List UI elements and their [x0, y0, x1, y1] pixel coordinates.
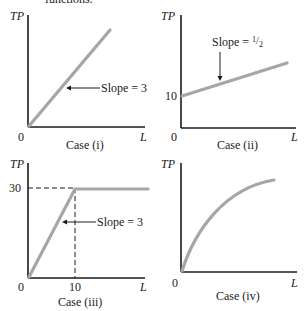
fraction-denominator: 2 — [259, 40, 263, 49]
x-axis-label: L — [139, 280, 147, 294]
case-label: Case (iii) — [58, 295, 102, 309]
chart-case-ii: TP 10 0 L Case (ii) Slope = 1/2 — [161, 9, 298, 152]
chart-case-i: TP 0 L Case (i) Slope = 3 — [10, 9, 147, 152]
x-tick-10: 10 — [69, 280, 81, 294]
x-axis-label: L — [139, 130, 147, 144]
origin-label: 0 — [18, 280, 24, 294]
tp-line — [29, 189, 148, 277]
y-axis-label: TP — [10, 9, 25, 23]
tp-curve — [182, 180, 274, 271]
tp-line — [182, 63, 287, 96]
case-label: Case (ii) — [217, 138, 258, 152]
origin-label: 0 — [18, 130, 24, 144]
header-fragment: functions. — [45, 0, 93, 6]
slope-annotation: Slope = 1/2 — [212, 35, 263, 49]
x-axis-label: L — [290, 276, 298, 290]
y-tick-30: 30 — [9, 181, 21, 195]
y-axis-label: TP — [161, 157, 176, 171]
origin-label: 0 — [172, 276, 178, 290]
case-label: Case (i) — [66, 138, 104, 152]
tp-line — [29, 30, 110, 126]
production-function-figure: functions. TP 0 L Case (i) Slope = 3 TP … — [0, 0, 305, 311]
arrowhead-icon — [218, 76, 223, 81]
slope-prefix: Slope = — [212, 35, 252, 49]
arrowhead-icon — [66, 86, 71, 91]
slope-annotation: Slope = 3 — [97, 215, 143, 229]
y-tick-10: 10 — [165, 89, 177, 103]
case-label: Case (iv) — [216, 289, 260, 303]
y-axis-label: TP — [10, 157, 25, 171]
arrowhead-icon — [62, 220, 67, 225]
chart-case-iii: TP 30 0 10 L Case (iii) Slope = 3 — [9, 157, 148, 309]
x-axis-label: L — [290, 130, 298, 144]
chart-case-iv: TP 0 L Case (iv) — [161, 157, 298, 303]
y-axis-label: TP — [161, 9, 176, 23]
slope-annotation: Slope = 3 — [101, 81, 147, 95]
origin-label: 0 — [171, 130, 177, 144]
